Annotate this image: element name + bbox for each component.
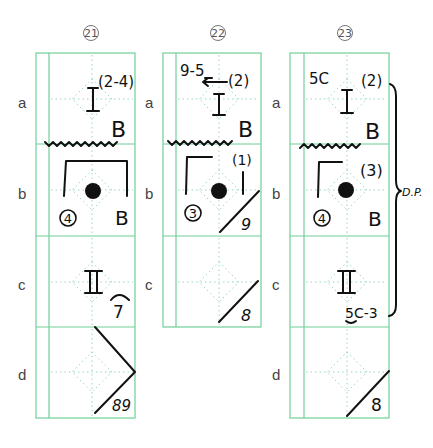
cell-21a: (2-4) B [45,73,134,146]
svg-text:21: 21 [84,27,98,40]
top-left-note: 5C [309,70,329,88]
underline-mark [346,321,356,323]
corner-mark: 8 [371,395,382,415]
svg-text:4: 4 [64,211,72,226]
row-label-d: d [18,366,26,383]
note-text: (2) [228,72,249,90]
column-21-frame [36,53,135,418]
cell-22a: 9-5 (2) B [168,62,253,145]
cell-21d: 89 [95,327,135,415]
cell-22b: (1) 3 9 [185,152,259,234]
corner-mark: B [115,206,129,230]
row-label-c: c [18,276,26,293]
roman-numeral-one [87,88,99,111]
row-label-b: b [145,185,153,202]
roman-numeral-one [213,94,225,115]
svg-text:22: 22 [211,27,225,40]
row-label-c: c [272,276,280,293]
hit-line [220,191,259,232]
bracket-line [186,157,212,194]
cell-22c: 8 [219,281,258,325]
row-label-b: b [18,185,26,202]
column-header-21: 21 [84,26,99,41]
corner-mark: 9 [241,215,251,234]
row-label-a: a [272,94,281,111]
cell-23b: (3) 4 B [314,161,383,231]
brace-icon [389,84,401,316]
svg-text:3: 3 [189,206,197,221]
hit-line [219,281,258,322]
note-text: 5C-3 [345,305,378,321]
row-label-c: c [145,276,153,293]
note-text: 89 [112,397,131,415]
corner-mark: B [238,117,253,142]
note-text: (2) [361,72,382,90]
corner-mark: B [368,207,382,231]
cell-23d: 8 [347,371,389,416]
scoring-diagram: 21 22 23 a b c d a b c a b c d [0,0,433,448]
brace-label: D.P. [402,186,423,199]
column-header-22: 22 [211,26,226,41]
cell-23a: 5C (2) B [300,70,382,148]
svg-text:4: 4 [318,211,326,226]
corner-mark: B [365,119,380,144]
note-text: (2-4) [98,73,134,91]
column-23-frame [290,53,389,418]
column-header-23: 23 [338,26,353,41]
row-label-a: a [145,94,154,111]
row-label-a: a [18,94,27,111]
row-label-d: d [272,366,280,383]
row-label-b: b [272,185,280,202]
note-text: 7 [113,302,124,322]
cell-23c: 5C-3 [338,271,378,323]
ball-dot-icon [338,182,354,198]
ball-dot-icon [85,183,101,199]
corner-mark: 8 [241,306,251,325]
arrow-left-icon [203,78,227,86]
svg-text:23: 23 [338,27,352,40]
corner-mark: B [111,117,126,142]
cell-21b: 4 B [60,161,129,230]
top-left-note: 9-5 [180,62,205,80]
arc-mark [111,295,129,300]
hit-line [347,371,389,416]
note-text: (1) [232,152,252,168]
note-text: (3) [360,161,383,180]
ball-dot-icon [211,183,227,199]
roman-numeral-one [341,90,353,113]
zigzag-line [300,144,360,148]
